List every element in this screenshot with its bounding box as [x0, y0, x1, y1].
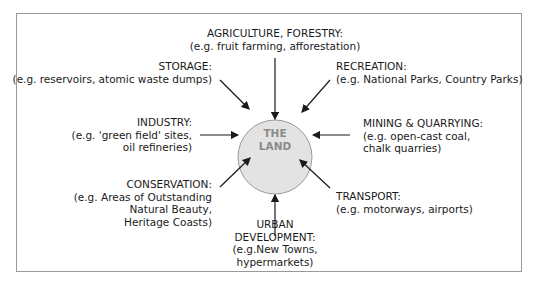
conservation-title: CONSERVATION: [74, 178, 212, 191]
urban-title-2: DEVELOPMENT: [205, 231, 345, 244]
conservation-example-2: Natural Beauty, [74, 203, 212, 216]
label-agriculture: AGRICULTURE, FORESTRY: (e.g. fruit farmi… [175, 27, 375, 52]
arrow-recreation [302, 80, 330, 112]
transport-example: (e.g. motorways, airports) [336, 203, 473, 216]
the-land-label: THE LAND [237, 127, 313, 152]
label-conservation: CONSERVATION: (e.g. Areas of Outstanding… [74, 178, 212, 228]
industry-title: INDUSTRY: [72, 116, 192, 129]
transport-title: TRANSPORT: [336, 190, 473, 203]
urban-example-2: hypermarkets) [205, 256, 345, 269]
industry-example-2: oil refineries) [72, 141, 192, 154]
urban-example-1: (e.g.New Towns, [205, 243, 345, 256]
mining-title: MINING & QUARRYING: [363, 117, 483, 130]
conservation-example-3: Heritage Coasts) [74, 216, 212, 229]
center-line-1: THE [237, 127, 313, 140]
center-line-2: LAND [237, 140, 313, 153]
industry-example-1: (e.g. 'green field' sites, [72, 129, 192, 142]
label-mining: MINING & QUARRYING: (e.g. open-cast coal… [363, 117, 483, 155]
conservation-example-1: (e.g. Areas of Outstanding [74, 191, 212, 204]
recreation-title: RECREATION: [336, 60, 522, 73]
storage-example: (e.g. reservoirs, atomic waste dumps) [13, 73, 212, 86]
recreation-example: (e.g. National Parks, Country Parks) [336, 73, 522, 86]
label-recreation: RECREATION: (e.g. National Parks, Countr… [336, 60, 522, 85]
arrow-storage [220, 80, 249, 109]
label-storage: STORAGE: (e.g. reservoirs, atomic waste … [13, 60, 212, 85]
storage-title: STORAGE: [13, 60, 212, 73]
mining-example-2: chalk quarries) [363, 142, 483, 155]
urban-title-1: URBAN [205, 218, 345, 231]
label-transport: TRANSPORT: (e.g. motorways, airports) [336, 190, 473, 215]
label-urban: URBAN DEVELOPMENT: (e.g.New Towns, hyper… [205, 218, 345, 268]
label-industry: INDUSTRY: (e.g. 'green field' sites, oil… [72, 116, 192, 154]
agriculture-title: AGRICULTURE, FORESTRY: [175, 27, 375, 40]
agriculture-example: (e.g. fruit farming, afforestation) [175, 40, 375, 53]
mining-example-1: (e.g. open-cast coal, [363, 130, 483, 143]
